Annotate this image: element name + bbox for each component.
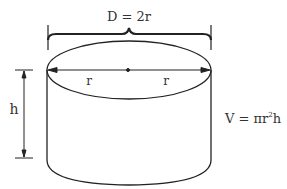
arrow-up-icon xyxy=(22,71,26,78)
arrow-right-icon xyxy=(201,68,210,73)
volume-formula: V = πr2h xyxy=(224,111,282,126)
diameter-label: D = 2r xyxy=(107,9,152,24)
radius-label-left: r xyxy=(86,74,92,88)
radius-line xyxy=(48,68,210,73)
center-point xyxy=(127,69,130,72)
height-label: h xyxy=(9,101,18,117)
bottom-arc xyxy=(47,160,211,185)
cylinder-body xyxy=(47,41,211,185)
cylinder-diagram: D = 2r r r h V = πr2h xyxy=(0,0,287,189)
formula-suffix: h xyxy=(273,111,282,126)
arrow-left-icon xyxy=(48,68,57,73)
arrow-down-icon xyxy=(22,150,26,157)
diameter-brace xyxy=(48,25,211,50)
radius-label-right: r xyxy=(163,74,169,88)
formula-prefix: V = πr xyxy=(224,111,269,126)
